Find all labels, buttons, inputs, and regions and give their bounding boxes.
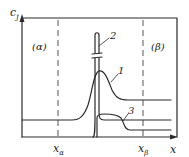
y-axis-label: cj — [10, 6, 19, 21]
x-beta-label: xβ — [138, 142, 148, 157]
axis-break-mark — [92, 53, 102, 54]
axis-break-mark — [92, 57, 102, 58]
curve-label-1: 1 — [118, 65, 124, 76]
x-alpha-label: xα — [53, 142, 64, 157]
curve-2-upper — [95, 33, 99, 53]
curve-2 — [93, 58, 95, 137]
curve-label-3: 3 — [128, 105, 134, 116]
x-axis-label: x — [170, 143, 177, 156]
leader-1 — [111, 74, 118, 82]
curve-2-right — [99, 58, 171, 120]
region-beta-label: (β) — [151, 41, 165, 52]
leader-2 — [99, 38, 109, 46]
concentration-profile-diagram: cj (α) (β) 2 1 3 xα xβ x — [0, 0, 189, 157]
curve-1 — [22, 71, 171, 120]
curve-3 — [97, 114, 171, 137]
region-alpha-label: (α) — [32, 41, 47, 52]
curve-label-2: 2 — [109, 30, 116, 41]
